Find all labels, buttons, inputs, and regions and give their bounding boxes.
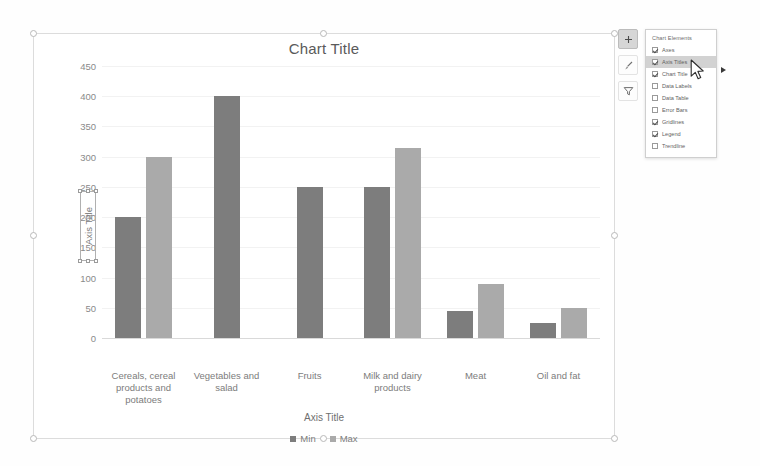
legend-label: Max	[340, 433, 358, 444]
flyout-item-label: Legend	[662, 131, 681, 137]
flyout-item-data-table[interactable]: Data Table	[646, 92, 716, 104]
checkbox-icon[interactable]	[652, 119, 658, 125]
category-label: Oil and fat	[517, 370, 600, 406]
legend-label: Min	[300, 433, 315, 444]
horizontal-axis-title[interactable]: Axis Title	[34, 412, 614, 423]
bar-min[interactable]	[530, 323, 556, 338]
axis-title-handle-top-right[interactable]	[94, 189, 98, 193]
flyout-item-label: Chart Title	[662, 71, 688, 77]
legend-swatch-icon	[330, 436, 336, 442]
flyout-item-label: Gridlines	[662, 119, 684, 125]
flyout-item-trendline[interactable]: Trendline	[646, 140, 716, 152]
chart-object[interactable]: Chart Title 050100150200250300350400450 …	[33, 33, 615, 439]
chart-elements-flyout[interactable]: Chart Elements AxesAxis TitlesChart Titl…	[645, 29, 717, 158]
axis-title-handle-bottom-left[interactable]	[78, 259, 82, 263]
y-axis-tick-label: 350	[80, 121, 96, 132]
plot-area: 050100150200250300350400450	[34, 66, 614, 366]
axis-title-handle-bottom[interactable]	[86, 259, 90, 263]
flyout-item-legend[interactable]: Legend	[646, 128, 716, 140]
y-axis-tick-label: 100	[80, 272, 96, 283]
vertical-axis-title-label: Axis Title	[83, 207, 94, 245]
legend-swatch-icon	[290, 436, 296, 442]
y-axis-tick-label: 50	[85, 302, 96, 313]
checkbox-icon[interactable]	[652, 143, 658, 149]
bar-group	[517, 66, 600, 338]
slide-canvas: Chart Title 050100150200250300350400450 …	[0, 0, 760, 466]
category-label: Vegetables and salad	[185, 370, 268, 406]
bar-max[interactable]	[478, 284, 504, 338]
brush-icon	[623, 60, 634, 71]
bar-group	[185, 66, 268, 338]
bar-max[interactable]	[146, 157, 172, 338]
submenu-arrow-icon[interactable]	[721, 67, 726, 73]
checkbox-icon[interactable]	[652, 47, 658, 53]
flyout-item-label: Error Bars	[662, 107, 688, 113]
flyout-item-axes[interactable]: Axes	[646, 44, 716, 56]
filter-icon	[623, 86, 634, 97]
bar-min[interactable]	[214, 96, 240, 338]
resize-handle-top-center[interactable]	[320, 30, 327, 37]
y-axis-tick-label: 450	[80, 61, 96, 72]
flyout-item-label: Axis Titles	[662, 59, 687, 65]
bar-group	[268, 66, 351, 338]
bar-min[interactable]	[115, 217, 141, 338]
flyout-item-label: Data Table	[662, 95, 689, 101]
y-axis-tick-label: 300	[80, 151, 96, 162]
legend-item[interactable]: Min	[290, 433, 315, 444]
checkbox-icon[interactable]	[652, 95, 658, 101]
vertical-axis-title[interactable]: Axis Title	[81, 194, 95, 258]
axis-title-handle-top[interactable]	[86, 189, 90, 193]
bar-group	[102, 66, 185, 338]
axis-title-handle-top-left[interactable]	[78, 189, 82, 193]
category-label: Milk and dairy products	[351, 370, 434, 406]
bar-min[interactable]	[447, 311, 473, 338]
bar-group	[351, 66, 434, 338]
flyout-title: Chart Elements	[646, 34, 716, 44]
chart-styles-button[interactable]	[618, 55, 638, 75]
chart-legend[interactable]: MinMax	[34, 433, 614, 444]
bar-max[interactable]	[395, 148, 421, 338]
flyout-item-error-bars[interactable]: Error Bars	[646, 104, 716, 116]
legend-item[interactable]: Max	[330, 433, 358, 444]
chart-side-buttons	[617, 29, 639, 101]
flyout-item-gridlines[interactable]: Gridlines	[646, 116, 716, 128]
checkbox-icon[interactable]	[652, 59, 658, 65]
resize-handle-top-left[interactable]	[30, 30, 37, 37]
category-label: Meat	[434, 370, 517, 406]
bar-max[interactable]	[561, 308, 587, 338]
chart-title[interactable]: Chart Title	[34, 40, 614, 57]
plus-icon	[624, 35, 633, 44]
axis-title-handle-bottom-right[interactable]	[94, 259, 98, 263]
y-axis-tick-label: 400	[80, 91, 96, 102]
category-axis-labels: Cereals, cereal products and potatoesVeg…	[102, 370, 600, 406]
chart-filters-button[interactable]	[618, 81, 638, 101]
category-label: Cereals, cereal products and potatoes	[102, 370, 185, 406]
checkbox-icon[interactable]	[652, 83, 658, 89]
bar-min[interactable]	[297, 187, 323, 338]
flyout-item-label: Trendline	[662, 143, 685, 149]
y-axis-tick-label: 0	[91, 333, 96, 344]
flyout-item-label: Axes	[662, 47, 674, 53]
bar-group	[434, 66, 517, 338]
category-label: Fruits	[268, 370, 351, 406]
chart-elements-button[interactable]	[618, 29, 638, 49]
checkbox-icon[interactable]	[652, 131, 658, 137]
plot-canvas	[102, 66, 600, 339]
bar-min[interactable]	[364, 187, 390, 338]
mouse-cursor	[690, 59, 707, 86]
checkbox-icon[interactable]	[652, 107, 658, 113]
flyout-item-label: Data Labels	[662, 83, 692, 89]
checkbox-icon[interactable]	[652, 71, 658, 77]
